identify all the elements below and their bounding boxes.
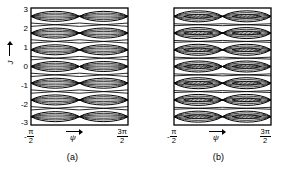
- x-axis-label-a: ψ: [61, 133, 85, 142]
- hatched-core-lens: [184, 82, 213, 85]
- panel-b: -π2 3π2 ψ (b): [146, 0, 291, 180]
- hatched-core-lens: [232, 31, 261, 34]
- hatched-core-lens: [184, 115, 213, 118]
- band-connector: [80, 58, 129, 60]
- x-tick-b-left-den: 2: [170, 136, 177, 145]
- band-connector: [80, 75, 129, 77]
- x-tick-b-left-num: π: [170, 128, 177, 136]
- band-connector: [223, 58, 272, 59]
- x-tick-b-right-num: 3π: [260, 128, 271, 136]
- band-connector: [80, 108, 129, 110]
- band-connector: [80, 41, 129, 43]
- band-connector: [223, 75, 272, 76]
- x-tick-b-right-den: 2: [260, 136, 271, 145]
- hatched-core-lens: [232, 115, 261, 118]
- hatched-core-lens: [232, 98, 261, 101]
- band-connector: [223, 25, 272, 26]
- panel-a-curves: [31, 11, 128, 121]
- band-connector: [174, 92, 223, 93]
- x-tick-a-left-num: π: [27, 128, 34, 136]
- hatched-core-lens: [232, 65, 261, 68]
- x-tick-a-right-num: 3π: [117, 128, 128, 136]
- panel-a-caption: (a): [0, 152, 145, 162]
- hatched-core-lens: [184, 98, 213, 101]
- hatched-core-lens: [184, 48, 213, 51]
- band-connector: [31, 75, 80, 77]
- band-connector: [31, 92, 80, 94]
- hatched-core-lens: [184, 31, 213, 34]
- panel-b-caption: (b): [146, 152, 291, 162]
- x-tick-b-right: 3π2: [259, 128, 271, 144]
- panel-a: J 3 2 1 0 -1 -2 -3 -π2 3π2 ψ (a): [0, 0, 145, 180]
- hatched-core-lens: [232, 15, 261, 18]
- x-axis-label-b: ψ: [204, 133, 228, 142]
- band-connector: [31, 108, 80, 110]
- x-tick-a-right: 3π2: [116, 128, 128, 144]
- x-tick-b-left: -π2: [167, 128, 177, 144]
- x-tick-a-left-den: 2: [27, 136, 34, 145]
- band-connector: [174, 25, 223, 26]
- band-connector: [174, 75, 223, 76]
- hatched-core-lens: [184, 15, 213, 18]
- band-connector: [31, 41, 80, 43]
- band-connector: [223, 92, 272, 93]
- band-connector: [31, 58, 80, 60]
- x-tick-a-left: -π2: [24, 128, 34, 144]
- band-connector: [174, 108, 223, 109]
- band-connector: [174, 58, 223, 59]
- band-connector: [31, 25, 80, 27]
- x-axis-arrow-b: [209, 131, 223, 132]
- panel-b-curves: [174, 11, 271, 122]
- hatched-core-lens: [232, 48, 261, 51]
- hatched-core-lens: [184, 65, 213, 68]
- band-connector: [223, 108, 272, 109]
- band-connector: [80, 25, 129, 27]
- band-connector: [223, 41, 272, 42]
- band-connector: [174, 41, 223, 42]
- x-axis-arrow-a: [66, 131, 80, 132]
- figure: J 3 2 1 0 -1 -2 -3 -π2 3π2 ψ (a): [0, 0, 291, 180]
- x-tick-a-right-den: 2: [117, 136, 128, 145]
- hatched-core-lens: [232, 82, 261, 85]
- band-connector: [80, 92, 129, 94]
